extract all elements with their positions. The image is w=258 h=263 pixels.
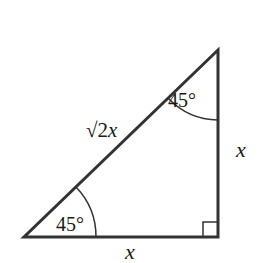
hypotenuse-label: √2x bbox=[86, 118, 118, 142]
right-angle-marker bbox=[203, 222, 218, 237]
triangle-diagram: 45° 45° √2x x x bbox=[0, 0, 258, 263]
top-angle-label: 45° bbox=[168, 89, 196, 111]
right-side-label: x bbox=[235, 137, 246, 162]
hypotenuse-variable: x bbox=[107, 118, 118, 142]
bottom-side-label: x bbox=[124, 239, 135, 263]
bottom-angle-label: 45° bbox=[56, 213, 84, 235]
triangle-svg: 45° 45° √2x x x bbox=[0, 0, 258, 263]
hypotenuse-radical: √2 bbox=[86, 118, 108, 142]
triangle bbox=[24, 50, 218, 237]
